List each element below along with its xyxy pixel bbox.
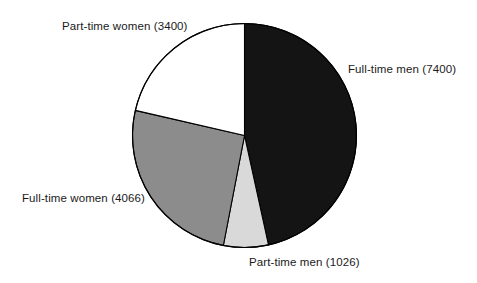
pie-chart: Part-time women (3400) Full-time men (74… — [0, 0, 477, 283]
pie-slice-group — [132, 24, 356, 248]
pie-label-part-time-women: Part-time women (3400) — [62, 20, 188, 33]
pie-label-full-time-women: Full-time women (4066) — [22, 192, 145, 205]
chart-page: Part-time women (3400) Full-time men (74… — [0, 0, 477, 283]
pie-chart-svg — [0, 0, 477, 283]
pie-label-part-time-men: Part-time men (1026) — [249, 256, 360, 269]
pie-label-full-time-men: Full-time men (7400) — [348, 63, 456, 76]
